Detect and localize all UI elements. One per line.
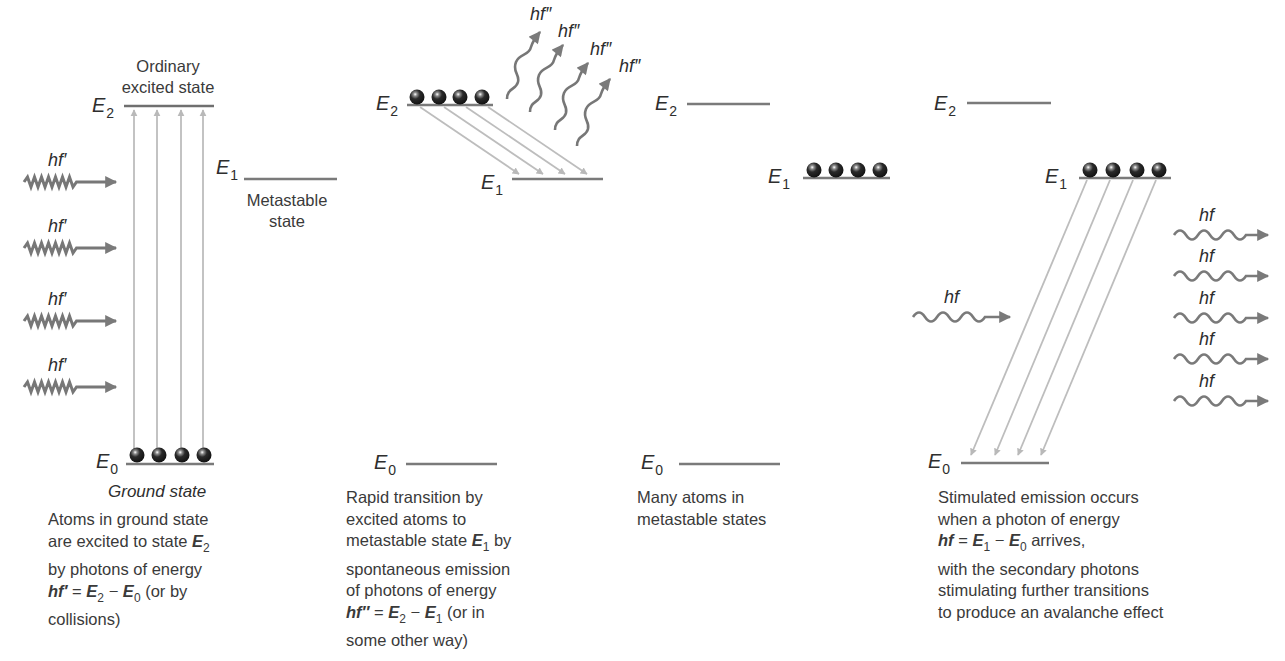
atom-icon bbox=[453, 90, 468, 105]
level-e1-label: E1 bbox=[481, 171, 503, 198]
photon-label: hf′ bbox=[48, 289, 66, 310]
atom-icon bbox=[475, 90, 490, 105]
photon-wave-icon bbox=[1174, 272, 1268, 281]
caption-pumping: Atoms in ground state are excited to sta… bbox=[48, 509, 298, 631]
photon-wave-icon bbox=[24, 382, 116, 392]
caption-line: metastable state E1 by bbox=[346, 530, 606, 559]
text: = bbox=[954, 531, 973, 549]
caption-line: Rapid transition by bbox=[346, 487, 606, 509]
level-e2-label: E2 bbox=[92, 94, 114, 121]
symbol: E bbox=[472, 531, 483, 549]
incoming-photon-label: hf bbox=[944, 287, 959, 308]
caption-line: metastable states bbox=[637, 509, 857, 531]
atom-icon bbox=[829, 163, 844, 178]
level-e2-label: E2 bbox=[376, 92, 398, 119]
photon-wave-icon bbox=[1174, 355, 1268, 364]
level-e0-label: E0 bbox=[96, 450, 118, 477]
symbol: E bbox=[96, 450, 109, 472]
symbol: E bbox=[1009, 531, 1020, 549]
subscript: 0 bbox=[655, 462, 663, 478]
text: − bbox=[104, 582, 123, 600]
atom-icon bbox=[152, 448, 167, 463]
symbol: E bbox=[655, 92, 668, 114]
subscript: 2 bbox=[399, 612, 406, 626]
symbol: E bbox=[376, 92, 389, 114]
subscript: 0 bbox=[942, 461, 950, 477]
text: metastable state bbox=[346, 531, 472, 549]
caption-line: some other way) bbox=[346, 630, 606, 652]
symbol: E bbox=[216, 156, 229, 178]
atom-icon bbox=[130, 448, 145, 463]
text: (or in bbox=[443, 603, 485, 621]
symbol: E bbox=[481, 171, 494, 193]
incoming-stimulating-photon bbox=[913, 313, 1010, 322]
photon-wave-icon bbox=[555, 63, 588, 130]
atom-icon bbox=[197, 448, 212, 463]
photon-wave-icon bbox=[24, 316, 116, 326]
panel-population-inversion bbox=[679, 104, 890, 464]
caption-stimulated-emission: Stimulated emission occurs when a photon… bbox=[938, 487, 1268, 623]
subscript: 1 bbox=[1059, 176, 1067, 192]
caption-line: spontaneous emission bbox=[346, 559, 606, 581]
photon-label: hf″ bbox=[558, 21, 579, 42]
subscript: 2 bbox=[669, 103, 677, 119]
ground-state-label: Ground state bbox=[108, 482, 206, 502]
subscript: 1 bbox=[495, 182, 503, 198]
subscript: 1 bbox=[230, 167, 238, 183]
level-e1-label: E1 bbox=[216, 156, 238, 183]
atom-icon bbox=[873, 163, 888, 178]
panel-stimulated-emission bbox=[913, 103, 1268, 463]
symbol: E bbox=[934, 92, 947, 114]
photon-wave-icon bbox=[24, 177, 116, 187]
text: by bbox=[489, 531, 511, 549]
text: = bbox=[369, 603, 388, 621]
symbol: E bbox=[92, 94, 105, 116]
level-e0-label: E0 bbox=[374, 451, 396, 478]
level-e2-label: E2 bbox=[655, 92, 677, 119]
symbol: E bbox=[972, 531, 983, 549]
atom-icon bbox=[175, 448, 190, 463]
metastable-state-label: Metastable state bbox=[232, 190, 342, 232]
caption-line: to produce an avalanche effect bbox=[938, 602, 1268, 624]
label-line: state bbox=[232, 211, 342, 232]
atom-icon bbox=[432, 90, 447, 105]
panel-spontaneous-decay bbox=[406, 32, 610, 464]
photon-label: hf″ bbox=[530, 4, 551, 25]
subscript: 0 bbox=[110, 461, 118, 477]
photon-wave-icon bbox=[913, 313, 1010, 322]
text: = bbox=[68, 582, 87, 600]
symbol: E bbox=[1045, 165, 1058, 187]
subscript: 2 bbox=[203, 541, 210, 555]
subscript: 0 bbox=[1020, 540, 1027, 554]
caption-equation: hf = E1 − E0 arrives, bbox=[938, 530, 1268, 559]
subscript: 2 bbox=[390, 103, 398, 119]
symbol: E bbox=[374, 451, 387, 473]
text: − bbox=[406, 603, 425, 621]
subscript: 2 bbox=[948, 103, 956, 119]
atom-icon bbox=[1106, 163, 1121, 178]
photon-wave-icon bbox=[1174, 231, 1268, 240]
label-line: Ordinary bbox=[116, 56, 220, 77]
photon-label: hf″ bbox=[619, 56, 640, 77]
subscript: 0 bbox=[134, 591, 141, 605]
level-e0-label: E0 bbox=[641, 451, 663, 478]
photon-wave-icon bbox=[530, 45, 563, 112]
level-e1-label: E1 bbox=[768, 165, 790, 192]
photon-wave-icon bbox=[24, 243, 116, 253]
caption-equation: hf″ = E2 − E1 (or in bbox=[346, 602, 606, 631]
photon-label: hf′ bbox=[48, 355, 66, 376]
atoms-on-e2 bbox=[410, 90, 490, 105]
symbol: E bbox=[768, 165, 781, 187]
photon-label: hf bbox=[1199, 246, 1214, 267]
atom-icon bbox=[851, 163, 866, 178]
caption-spontaneous-decay: Rapid transition by excited atoms to met… bbox=[346, 487, 606, 652]
atoms-on-e1 bbox=[807, 163, 888, 178]
symbol: E bbox=[86, 582, 97, 600]
atom-icon bbox=[1083, 163, 1098, 178]
outgoing-coherent-photons bbox=[1174, 231, 1268, 406]
photon-wave-icon bbox=[1174, 397, 1268, 406]
photon-wave-icon bbox=[507, 32, 540, 99]
caption-line: Atoms in ground state bbox=[48, 509, 298, 531]
incoming-pump-photons bbox=[24, 177, 116, 392]
symbol: E bbox=[388, 603, 399, 621]
